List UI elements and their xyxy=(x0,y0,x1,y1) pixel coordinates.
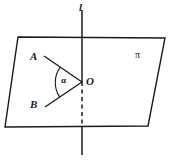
geometry-figure: l π A B O α xyxy=(0,0,169,164)
label-point-b: B xyxy=(30,99,37,110)
label-angle-alpha: α xyxy=(61,76,66,85)
geometry-canvas xyxy=(0,0,169,164)
figure-caption xyxy=(0,155,169,164)
plane-pi-shape xyxy=(5,37,165,127)
label-point-a: A xyxy=(30,51,37,62)
label-plane-pi: π xyxy=(135,50,140,60)
label-line-l: l xyxy=(79,2,82,13)
label-vertex-o: O xyxy=(86,76,94,87)
